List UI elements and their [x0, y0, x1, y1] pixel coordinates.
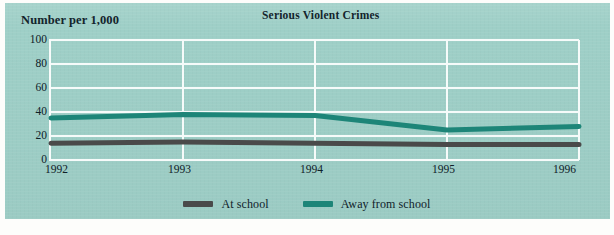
chart-screenshot: Number per 1,000 Serious Violent Crimes … — [0, 0, 614, 235]
y-tick-label-80: 80 — [3, 58, 47, 70]
plot-area — [51, 40, 579, 160]
series-lines — [51, 40, 579, 160]
y-tick-label-100: 100 — [3, 34, 47, 46]
legend-item-away-from-school[interactable]: Away from school — [303, 197, 431, 212]
x-tick-label-1996: 1996 — [553, 163, 576, 175]
x-tick-label-1995: 1995 — [432, 163, 455, 175]
legend-label: At school — [221, 197, 268, 212]
scan-edge-bottom — [0, 219, 614, 235]
y-axis-title: Number per 1,000 — [21, 13, 119, 28]
x-tick-label-1993: 1993 — [168, 163, 191, 175]
legend-item-at-school[interactable]: At school — [183, 197, 268, 212]
y-tick-label-60: 60 — [3, 82, 47, 94]
legend-label: Away from school — [341, 197, 431, 212]
legend-swatch-icon — [183, 201, 213, 207]
chart-title: Serious Violent Crimes — [262, 9, 379, 21]
scan-edge-top — [0, 0, 614, 3]
series-line-away-from-school — [51, 114, 579, 130]
legend-swatch-icon — [303, 201, 333, 207]
chart-legend: At schoolAway from school — [0, 196, 614, 212]
series-line-at-school — [51, 142, 579, 144]
scan-edge-right — [610, 0, 614, 222]
x-axis-tick-labels: 19921993199419951996 — [0, 163, 614, 179]
y-axis-tick-labels: 100806040200 — [0, 40, 47, 160]
x-tick-label-1994: 1994 — [300, 163, 323, 175]
y-tick-label-20: 20 — [3, 130, 47, 142]
y-tick-label-40: 40 — [3, 106, 47, 118]
x-tick-label-1992: 1992 — [45, 163, 68, 175]
